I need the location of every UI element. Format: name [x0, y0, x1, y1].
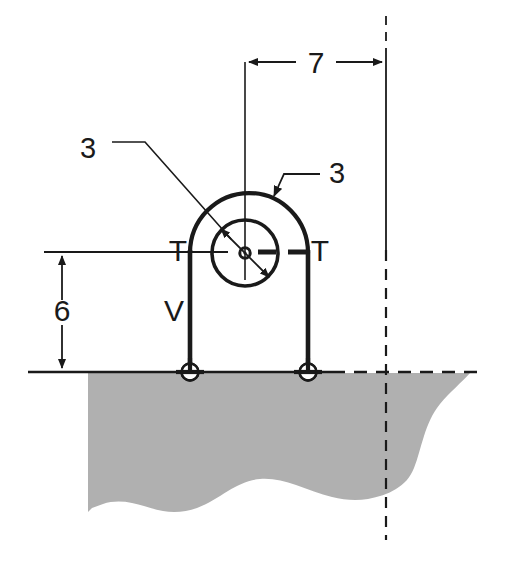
arch-crown — [190, 193, 308, 253]
ground-mass — [88, 373, 470, 512]
dimension-label-6: 6 — [54, 294, 71, 327]
node-label-shear-left: V — [164, 294, 184, 327]
diagram-canvas: 7 6 3 3 T T V — [0, 0, 508, 572]
node-label-tension-left: T — [169, 234, 187, 267]
dimension-label-7: 7 — [308, 46, 325, 79]
leader-line-inner — [112, 142, 231, 239]
part-label-radius-inner: 3 — [80, 132, 96, 164]
arch-diagram-figure: 7 6 3 3 T T V — [0, 0, 508, 572]
leader-radius-outer — [274, 174, 320, 196]
leader-line-outer — [274, 174, 320, 196]
part-label-radius-outer: 3 — [329, 157, 345, 189]
leader-radius-inner — [112, 142, 231, 239]
soil-region — [88, 373, 470, 512]
node-label-tension-right: T — [311, 234, 329, 267]
dimension-horizontal-7: 7 — [249, 46, 382, 79]
